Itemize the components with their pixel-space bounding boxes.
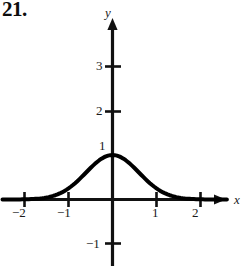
figure-container: 21. y x 3 2 1 −1 xyxy=(0,0,251,268)
x-tick-label-pos2: 2 xyxy=(192,206,199,219)
x-axis-label: x xyxy=(234,193,240,206)
y-axis xyxy=(107,18,117,266)
y-tick-label-2: 2 xyxy=(96,104,103,117)
y-tick-label-3: 3 xyxy=(96,59,103,72)
bell-curve xyxy=(3,155,227,200)
x-tick-label-pos1: 1 xyxy=(152,206,159,219)
y-axis-label: y xyxy=(105,6,111,19)
y-tick-label-1: 1 xyxy=(99,139,106,152)
x-tick-label-neg2: −2 xyxy=(12,206,26,219)
x-tick-label-neg1: −1 xyxy=(57,206,71,219)
y-tick-label-neg1: −1 xyxy=(86,237,100,250)
graph-plot xyxy=(0,0,251,268)
